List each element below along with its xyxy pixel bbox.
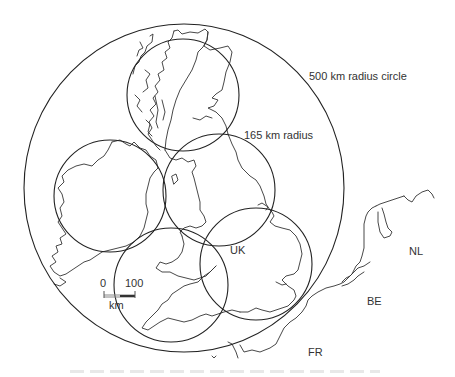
small-circle-ireland [54,140,166,252]
label-500km-circle: 500 km radius circle [309,71,407,82]
label-165km-radius: 165 km radius [244,130,313,141]
caption-remnant [70,370,380,373]
small-circle-southeast-england [200,208,312,320]
coastline-great-britain [133,29,302,330]
scale-label-start: 0 [100,278,106,289]
coastline-continent [212,190,434,358]
scale-bar [104,291,135,298]
label-nl: NL [409,246,423,257]
label-fr: FR [308,347,323,358]
label-be: BE [367,296,382,307]
scale-label-unit: km [109,300,124,311]
label-uk: UK [230,245,245,256]
scale-label-end: 100 [125,278,143,289]
map-canvas [0,0,455,377]
